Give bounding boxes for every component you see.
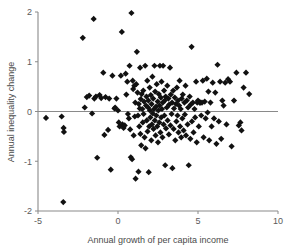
y-tick-label: -1	[24, 157, 32, 167]
data-point	[177, 123, 183, 129]
data-point	[172, 137, 178, 143]
data-point	[60, 199, 66, 205]
plot-svg: -50510 -2-1012 Annual growth of per capi…	[0, 0, 292, 251]
data-point	[141, 134, 147, 140]
data-point	[105, 127, 111, 133]
x-tick-label: 5	[195, 216, 200, 226]
data-point	[205, 89, 211, 95]
data-point	[173, 118, 179, 124]
data-point	[136, 123, 142, 129]
data-point	[91, 16, 97, 22]
y-tick-label: -2	[24, 206, 32, 216]
x-tick-label: 0	[115, 216, 120, 226]
x-tick-label: 10	[273, 216, 283, 226]
data-point	[193, 79, 199, 85]
data-point	[137, 131, 143, 137]
data-point	[207, 99, 213, 105]
data-point	[194, 139, 200, 145]
data-point	[108, 167, 114, 173]
data-point	[175, 129, 181, 135]
data-point	[101, 132, 107, 138]
data-point	[151, 63, 157, 69]
data-point	[113, 95, 119, 101]
data-point	[126, 63, 132, 69]
data-point	[146, 169, 152, 175]
data-point	[165, 117, 171, 123]
data-point	[43, 115, 49, 121]
data-point	[198, 112, 204, 118]
data-point	[212, 89, 218, 95]
data-point	[233, 70, 239, 76]
data-point	[147, 85, 153, 91]
data-point	[162, 162, 168, 168]
data-point	[144, 78, 150, 84]
data-point	[219, 97, 225, 103]
data-point	[161, 88, 167, 94]
data-point	[149, 74, 155, 80]
data-points-group	[43, 10, 252, 205]
data-point	[155, 139, 161, 145]
data-point	[210, 80, 216, 86]
data-point	[205, 109, 211, 115]
y-axis-title: Annual inequality change	[6, 62, 16, 163]
data-point	[167, 65, 173, 71]
data-point	[243, 70, 249, 76]
data-point	[229, 143, 235, 149]
data-point	[209, 123, 215, 129]
data-point	[131, 132, 137, 138]
data-point	[196, 123, 202, 129]
data-point	[119, 29, 125, 35]
data-point	[133, 176, 139, 182]
y-tick-label: 0	[27, 107, 32, 117]
data-point	[80, 35, 86, 41]
data-point	[82, 104, 88, 110]
y-axis-ticks: -2-1012	[24, 7, 38, 216]
data-point	[221, 102, 227, 108]
data-point	[137, 65, 143, 71]
data-point	[187, 136, 193, 142]
data-point	[182, 83, 188, 89]
data-point	[217, 79, 223, 85]
data-point	[214, 62, 220, 68]
data-point	[223, 121, 229, 127]
scatter-chart: -50510 -2-1012 Annual growth of per capi…	[0, 0, 292, 251]
data-point	[246, 91, 252, 97]
data-point	[134, 49, 140, 55]
data-point	[127, 126, 133, 132]
data-point	[218, 136, 224, 142]
data-point	[126, 115, 132, 121]
data-point	[211, 115, 217, 121]
x-axis-title: Annual growth of per capita income	[87, 235, 228, 245]
data-point	[216, 118, 222, 124]
y-tick-label: 1	[27, 57, 32, 67]
y-tick-label: 2	[27, 7, 32, 17]
data-point	[160, 63, 166, 69]
data-point	[241, 85, 247, 91]
data-point	[169, 165, 175, 171]
x-axis-ticks: -50510	[34, 211, 283, 226]
data-point	[100, 70, 106, 76]
data-point	[213, 141, 219, 147]
data-point	[203, 115, 209, 121]
data-point	[59, 113, 65, 119]
data-point	[231, 97, 237, 103]
data-point	[186, 162, 192, 168]
data-point	[153, 132, 159, 138]
data-point	[61, 129, 67, 135]
data-point	[109, 73, 115, 79]
data-point	[190, 129, 196, 135]
data-point	[177, 78, 183, 84]
data-point	[124, 79, 130, 85]
data-point	[166, 131, 172, 137]
data-point	[238, 127, 244, 133]
data-point	[201, 134, 207, 140]
x-tick-label: -5	[34, 216, 42, 226]
data-point	[164, 83, 170, 89]
data-point	[142, 63, 148, 69]
data-point	[135, 169, 141, 175]
data-point	[189, 44, 195, 50]
data-point	[123, 91, 129, 97]
data-point	[174, 112, 180, 118]
data-point	[145, 128, 151, 134]
data-point	[128, 10, 134, 16]
